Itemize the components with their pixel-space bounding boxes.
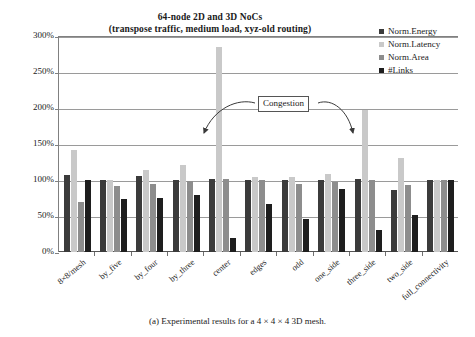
- bar[interactable]: [434, 180, 440, 252]
- bar-group: [59, 36, 95, 252]
- bar[interactable]: [296, 184, 302, 252]
- bar[interactable]: [427, 180, 433, 252]
- bar[interactable]: [259, 180, 265, 252]
- bar-group: [204, 36, 240, 252]
- bar[interactable]: [230, 238, 236, 252]
- bar[interactable]: [398, 158, 404, 252]
- bar-group: [132, 36, 168, 252]
- bar[interactable]: [318, 180, 324, 252]
- bar[interactable]: [303, 219, 309, 252]
- chart-title: 64-node 2D and 3D NoCs (transpose traffi…: [60, 12, 360, 35]
- x-axis-tick-mark: [167, 252, 168, 256]
- bar-group: [168, 36, 204, 252]
- y-axis-tick-label: 200%: [14, 102, 54, 112]
- bar-group: [95, 36, 131, 252]
- bar[interactable]: [187, 181, 193, 252]
- bar[interactable]: [71, 150, 77, 252]
- x-axis-tick-mark: [313, 252, 314, 256]
- plot-area: [58, 36, 458, 252]
- y-axis-tick-label: 50%: [14, 210, 54, 220]
- bar-group: [241, 36, 277, 252]
- bar[interactable]: [412, 215, 418, 252]
- y-axis-tick-label: 250%: [14, 66, 54, 76]
- figure-panel: 64-node 2D and 3D NoCs (transpose traffi…: [0, 0, 475, 337]
- bar[interactable]: [100, 180, 106, 252]
- bar-group: [423, 36, 459, 252]
- bar-group: [386, 36, 422, 252]
- bar[interactable]: [448, 180, 454, 252]
- bar[interactable]: [223, 179, 229, 252]
- bar-group: [350, 36, 386, 252]
- bar-group: [277, 36, 313, 252]
- x-axis-tick-mark: [276, 252, 277, 256]
- y-axis-tick-label: 300%: [14, 30, 54, 40]
- legend-swatch-icon: [379, 29, 384, 34]
- x-axis-tick-mark: [131, 252, 132, 256]
- x-axis-tick-mark: [203, 252, 204, 256]
- bar[interactable]: [114, 186, 120, 252]
- bar[interactable]: [376, 230, 382, 252]
- y-axis-tick-label: 150%: [14, 138, 54, 148]
- bar[interactable]: [332, 182, 338, 252]
- bar[interactable]: [209, 179, 215, 252]
- chart-title-line-2: (transpose traffic, medium load, xyz-old…: [60, 24, 360, 36]
- bar[interactable]: [107, 180, 113, 252]
- y-axis-tick-label: 0%: [14, 246, 54, 256]
- bar[interactable]: [194, 195, 200, 252]
- bar[interactable]: [266, 204, 272, 252]
- congestion-annotation: Congestion: [258, 96, 309, 112]
- bar[interactable]: [78, 202, 84, 252]
- x-axis-tick-mark: [385, 252, 386, 256]
- bar[interactable]: [121, 199, 127, 252]
- bar[interactable]: [150, 184, 156, 252]
- x-axis-tick-mark: [349, 252, 350, 256]
- x-axis-tick-mark: [240, 252, 241, 256]
- x-axis-tick-mark: [422, 252, 423, 256]
- bar[interactable]: [355, 179, 361, 252]
- bar[interactable]: [64, 175, 70, 252]
- bar[interactable]: [252, 177, 258, 252]
- bar-group: [314, 36, 350, 252]
- bar[interactable]: [391, 190, 397, 252]
- chart-title-line-1: 64-node 2D and 3D NoCs: [60, 12, 360, 24]
- bar[interactable]: [441, 180, 447, 252]
- bar[interactable]: [216, 47, 222, 252]
- bar[interactable]: [85, 180, 91, 252]
- y-axis-tick-mark: [55, 253, 59, 254]
- bar[interactable]: [157, 198, 163, 252]
- bar[interactable]: [136, 176, 142, 252]
- y-axis-tick-label: 100%: [14, 174, 54, 184]
- bar[interactable]: [180, 165, 186, 252]
- bar[interactable]: [289, 177, 295, 252]
- bar[interactable]: [362, 110, 368, 252]
- bar[interactable]: [325, 174, 331, 252]
- bar[interactable]: [245, 180, 251, 252]
- bar[interactable]: [282, 180, 288, 252]
- bar[interactable]: [369, 180, 375, 252]
- bar[interactable]: [339, 189, 345, 252]
- x-axis-tick-mark: [94, 252, 95, 256]
- bar[interactable]: [405, 185, 411, 252]
- bar[interactable]: [143, 170, 149, 252]
- bar[interactable]: [173, 180, 179, 252]
